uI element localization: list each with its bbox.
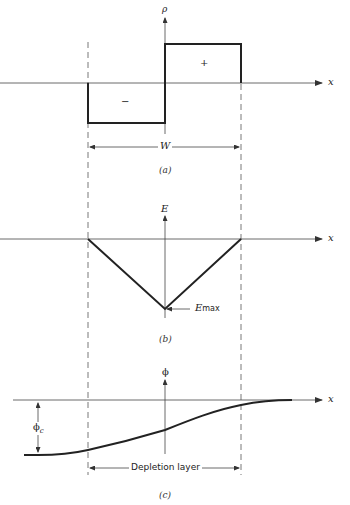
x-axis-label-c: x (328, 394, 334, 404)
caption-a: (a) (159, 165, 171, 175)
phi-axis-label: ϕ (162, 367, 169, 377)
emax-label-sub: max (202, 304, 219, 313)
phi-c-label-main: ϕ (33, 421, 40, 432)
positive-charge-label: + (200, 58, 208, 68)
rho-axis-label: ρ (162, 5, 167, 14)
phi-c-label: ϕc (33, 422, 44, 435)
x-axis-label-a: x (328, 77, 334, 87)
e-axis-label: E (161, 204, 168, 214)
width-label: W (158, 141, 172, 151)
negative-charge-label: − (121, 97, 129, 107)
x-axis-label-b: x (328, 233, 334, 243)
depletion-layer-label: Depletion layer (129, 462, 202, 472)
panel-b-electric-field (0, 216, 322, 318)
panel-a-charge-density (0, 18, 322, 147)
caption-c: (c) (159, 490, 171, 500)
pn-junction-diagram (0, 0, 350, 505)
phi-c-label-sub: c (40, 427, 44, 435)
emax-label: Emax (195, 303, 220, 313)
panel-c-potential (13, 380, 322, 468)
caption-b: (b) (159, 334, 172, 344)
